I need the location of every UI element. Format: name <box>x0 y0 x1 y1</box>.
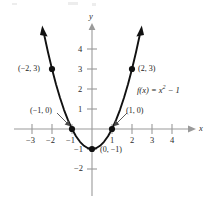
xtick-label-neg2: −2 <box>46 136 55 145</box>
ytick-label-pos2: 2 <box>78 85 82 94</box>
page-artifact-b <box>68 2 78 5</box>
point-label-neg2-3: (−2, 3) <box>18 65 40 73</box>
point-2-3 <box>129 66 135 72</box>
function-equation-base: f(x) = x <box>137 85 163 95</box>
curve-arrowhead-left <box>40 26 48 37</box>
x-axis-label: x <box>199 124 203 133</box>
ytick-label-neg1: −1 <box>74 145 83 154</box>
ytick-label-pos1: 1 <box>78 105 82 114</box>
point-neg1-0 <box>69 126 75 132</box>
xtick-label-pos1: 1 <box>110 136 114 145</box>
curve-arrowhead-right <box>136 26 144 37</box>
function-equation-tail: − 1 <box>166 85 180 95</box>
graph-figure: y x −3 −2 −1 1 2 3 4 4 3 2 1 −1 −2 (−2, … <box>0 0 214 205</box>
page-artifact-c <box>92 3 96 6</box>
page-artifact-a <box>12 3 17 5</box>
y-axis-label: y <box>89 12 93 21</box>
coordinate-plane <box>0 0 214 205</box>
xtick-label-pos3: 3 <box>150 136 154 145</box>
xtick-label-pos2: 2 <box>130 136 134 145</box>
ytick-label-pos4: 4 <box>78 45 82 54</box>
point-label-1-0: (1, 0) <box>126 107 143 115</box>
xtick-label-neg3: −3 <box>26 136 35 145</box>
point-label-0-neg1: (0, −1) <box>100 146 122 154</box>
ytick-label-pos3: 3 <box>78 65 82 74</box>
function-equation-label: f(x) = x2 − 1 <box>137 84 180 94</box>
point-neg2-3 <box>49 66 55 72</box>
point-1-0 <box>109 126 115 132</box>
point-0-neg1 <box>89 146 95 152</box>
point-label-2-3: (2, 3) <box>138 65 155 73</box>
point-label-neg1-0: (−1, 0) <box>30 107 52 115</box>
ytick-label-neg2: −2 <box>74 164 83 173</box>
xtick-label-pos4: 4 <box>170 136 174 145</box>
x-axis <box>14 126 196 133</box>
